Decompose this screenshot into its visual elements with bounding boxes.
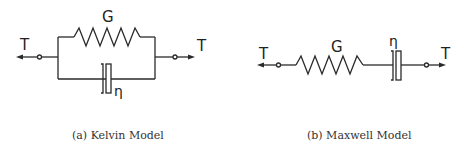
left-force-arrow-icon: [16, 55, 37, 60]
kelvin-caption: (a) Kelvin Model: [72, 129, 164, 142]
right-terminal-node: [173, 55, 177, 59]
left-force-arrow-icon: [257, 63, 276, 68]
maxwell-dashpot-label: η: [389, 33, 398, 49]
maxwell-caption: (b) Maxwell Model: [307, 129, 412, 142]
kelvin-dashpot-label: η: [114, 83, 123, 99]
maxwell-dashpot-icon: [391, 51, 424, 80]
left-terminal-node: [277, 63, 281, 67]
kelvin-force-right-label: T: [196, 37, 207, 55]
maxwell-force-left-label: T: [258, 45, 269, 63]
maxwell-spring-label: G: [331, 38, 343, 56]
maxwell-force-right-label: T: [440, 45, 451, 63]
right-force-arrow-icon: [429, 63, 447, 68]
kelvin-dashpot-icon: [58, 64, 155, 93]
kelvin-model-diagram: [16, 28, 195, 93]
maxwell-spring-icon: [296, 56, 393, 74]
left-terminal-node: [38, 55, 42, 59]
right-terminal-node: [425, 63, 429, 67]
figure-canvas: G T T η (a) Kelvin Model G η T T (b) Max…: [0, 0, 464, 156]
kelvin-spring-label: G: [102, 8, 114, 26]
kelvin-force-left-label: T: [19, 36, 30, 54]
kelvin-spring-icon: [58, 28, 155, 46]
right-force-arrow-icon: [177, 55, 195, 60]
maxwell-model-diagram: [257, 51, 446, 80]
